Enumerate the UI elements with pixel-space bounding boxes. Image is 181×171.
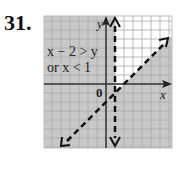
inequality-graph: y x 0 x − 2 > y or x < 1 [0, 0, 181, 171]
x-axis-label: x [159, 87, 166, 102]
inequality-line-1: x − 2 > y [47, 44, 98, 59]
origin-label: 0 [96, 85, 103, 100]
y-axis-label: y [95, 16, 103, 31]
plot-area [44, 16, 172, 148]
inequality-line-2: or x < 1 [47, 60, 91, 75]
